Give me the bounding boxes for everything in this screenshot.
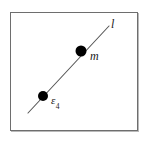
point-label-epsilon: ε4 bbox=[51, 95, 59, 109]
line-label-l: l bbox=[111, 18, 114, 30]
point-label-m: m bbox=[90, 50, 99, 62]
figure-root: l m ε4 bbox=[0, 0, 149, 144]
figure-drawing-canvas bbox=[0, 0, 149, 144]
point-label-epsilon-subscript: 4 bbox=[56, 102, 60, 111]
point-marker-epsilon bbox=[38, 91, 48, 101]
point-label-epsilon-base: ε bbox=[51, 94, 55, 106]
point-marker-m bbox=[76, 46, 87, 57]
